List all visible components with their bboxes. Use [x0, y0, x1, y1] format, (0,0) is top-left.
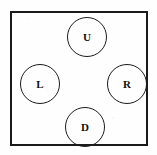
- dpad-diagram: U L R D: [0, 0, 157, 155]
- outer-frame-rectangle: U L R D: [10, 11, 148, 146]
- up-button[interactable]: U: [67, 17, 107, 57]
- down-button[interactable]: D: [65, 107, 105, 147]
- down-button-label: D: [81, 122, 89, 133]
- right-button-label: R: [123, 79, 131, 90]
- left-button-label: L: [36, 79, 44, 90]
- left-button[interactable]: L: [20, 64, 60, 104]
- right-button[interactable]: R: [107, 64, 147, 104]
- up-button-label: U: [83, 32, 91, 43]
